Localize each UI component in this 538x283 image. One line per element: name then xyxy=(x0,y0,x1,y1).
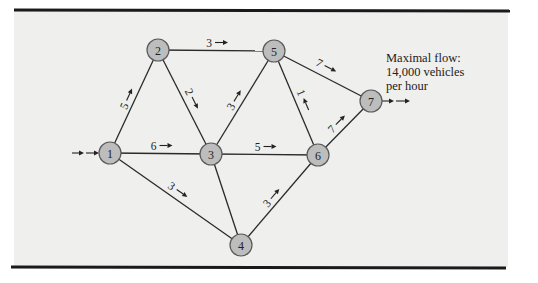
node-4: 4 xyxy=(230,234,252,256)
node-label: 4 xyxy=(238,239,244,253)
annotation-line: per hour xyxy=(386,79,429,93)
flow-value: 6 xyxy=(151,140,157,152)
figure-panel xyxy=(14,11,508,267)
node-6: 6 xyxy=(307,144,329,166)
node-label: 1 xyxy=(107,147,113,161)
node-label: 5 xyxy=(271,45,277,59)
annotation-line: Maximal flow: xyxy=(386,51,461,65)
node-5: 5 xyxy=(263,40,285,62)
node-label: 2 xyxy=(155,44,161,58)
node-2: 2 xyxy=(147,39,169,61)
bottom-rule xyxy=(11,267,506,268)
node-label: 3 xyxy=(208,148,214,162)
top-rule xyxy=(14,10,510,11)
node-3: 3 xyxy=(200,143,222,165)
node-label: 6 xyxy=(315,149,321,163)
flow-value: 5 xyxy=(255,141,261,153)
node-1: 1 xyxy=(99,142,121,164)
node-label: 7 xyxy=(368,95,374,109)
flow-value: 3 xyxy=(206,37,212,49)
node-7: 7 xyxy=(360,90,382,112)
max-flow-network-diagram: 56332353177 1234567 Maximal flow:14,000 … xyxy=(0,0,538,283)
annotation-line: 14,000 vehicles xyxy=(386,65,465,79)
